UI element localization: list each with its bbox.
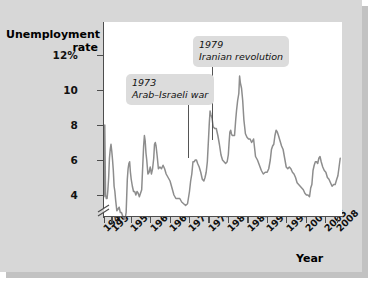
y-axis-tick-label: 6 — [71, 154, 78, 166]
x-axis-tick — [228, 217, 229, 223]
y-axis-title: Unemployment rate — [6, 28, 98, 54]
x-axis-tick — [286, 217, 287, 223]
annot-1979-label: 1979Iranian revolution — [193, 36, 289, 67]
y-axis-tick-label: 8 — [71, 119, 78, 131]
y-axis-tick — [97, 55, 103, 56]
x-axis-tick — [325, 217, 326, 223]
y-axis-tick — [97, 125, 103, 126]
y-axis-title-line1: Unemployment — [6, 28, 100, 41]
annot-1973-label: 1973Arab–Israeli war — [126, 74, 214, 105]
annot-1973-text: Arab–Israeli war — [132, 89, 208, 101]
y-axis-title-line2: rate — [72, 41, 98, 54]
y-axis-line — [103, 22, 104, 208]
annot-1973-leader-line — [188, 102, 189, 158]
x-axis-tick — [131, 217, 132, 223]
axis-break-icon — [96, 200, 112, 220]
x-axis-tick — [189, 217, 190, 223]
x-axis-tick — [267, 217, 268, 223]
y-axis-tick-label: 10 — [63, 84, 78, 96]
annot-1979-text: Iranian revolution — [199, 51, 283, 63]
x-axis-title: Year — [296, 252, 323, 265]
unemployment-rate-chart-figure: Unemployment rate Year 12%10864194819501… — [0, 0, 376, 282]
x-axis-tick — [150, 217, 151, 223]
x-axis-tick — [337, 217, 338, 223]
annot-1973-year: 1973 — [132, 77, 208, 89]
y-axis-tick — [97, 90, 103, 91]
x-axis-tick — [247, 217, 248, 223]
y-axis-tick — [97, 160, 103, 161]
y-axis-tick-label: 4 — [71, 189, 78, 201]
x-axis-tick — [306, 217, 307, 223]
x-axis-tick — [208, 217, 209, 223]
y-axis-tick — [97, 195, 103, 196]
x-axis-tick — [170, 217, 171, 223]
annot-1979-year: 1979 — [199, 39, 283, 51]
